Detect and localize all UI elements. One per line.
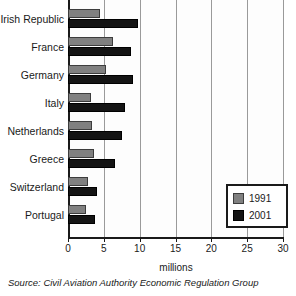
x-axis-tick — [104, 237, 105, 242]
x-axis-title: millions — [68, 262, 284, 273]
x-axis-tick — [176, 237, 177, 242]
category-label: Netherlands — [0, 126, 68, 137]
bar-1991 — [68, 93, 91, 102]
bar-2001 — [68, 103, 125, 112]
bar-1991 — [68, 65, 106, 74]
legend-item-1991: 1991 — [233, 190, 282, 207]
black-square-swatch — [233, 210, 244, 221]
category-label: France — [0, 42, 68, 53]
bar-1991 — [68, 205, 86, 214]
bar-2001 — [68, 215, 95, 224]
bar-1991 — [68, 121, 92, 130]
x-axis-tick-label: 20 — [196, 243, 226, 254]
gridline — [104, 0, 105, 237]
x-axis-tick — [68, 237, 69, 242]
x-axis-tick-label: 5 — [89, 243, 119, 254]
legend-label-2001: 2001 — [249, 210, 271, 221]
bar-1991 — [68, 177, 88, 186]
x-axis-tick — [283, 237, 284, 242]
x-axis-tick — [247, 237, 248, 242]
legend-item-2001: 2001 — [233, 207, 282, 224]
bar-2001 — [68, 187, 97, 196]
category-label: Irish Republic — [0, 14, 68, 25]
gridline — [176, 0, 177, 237]
source-note: Source: Civil Aviation Authority Economi… — [8, 277, 258, 288]
bar-1991 — [68, 9, 100, 18]
x-axis-tick-label: 0 — [53, 243, 83, 254]
x-axis-tick-label: 15 — [161, 243, 191, 254]
bar-1991 — [68, 37, 113, 46]
bar-1991 — [68, 149, 94, 158]
legend-label-1991: 1991 — [249, 193, 271, 204]
x-axis-tick-label: 10 — [125, 243, 155, 254]
category-label: Greece — [0, 154, 68, 165]
x-axis-tick-label: 25 — [232, 243, 262, 254]
bar-2001 — [68, 159, 115, 168]
bar-chart-figure: 051015202530 millions of AmericaIrish Re… — [0, 0, 296, 296]
bar-2001 — [68, 47, 131, 56]
chart-legend: 1991 2001 — [226, 184, 288, 228]
gridline — [140, 0, 141, 237]
x-axis-tick — [140, 237, 141, 242]
gray-square-swatch — [233, 193, 244, 204]
bar-2001 — [68, 131, 122, 140]
bar-2001 — [68, 75, 133, 84]
gridline — [211, 0, 212, 237]
y-axis-line — [68, 0, 70, 237]
category-label: Switzerland — [0, 182, 68, 193]
category-label: Germany — [0, 70, 68, 81]
x-axis-tick-label: 30 — [268, 243, 296, 254]
category-label: Italy — [0, 98, 68, 109]
x-axis-tick — [211, 237, 212, 242]
category-label: Portugal — [0, 210, 68, 221]
bar-2001 — [68, 19, 138, 28]
